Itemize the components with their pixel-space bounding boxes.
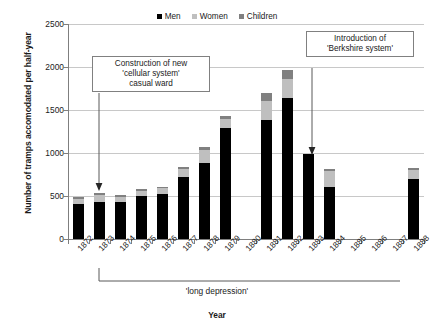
bar-segment-men-1888	[408, 179, 419, 239]
annotation-berkshire-line2: 'Berkshire system'	[310, 44, 410, 54]
bar-1879[interactable]	[220, 116, 231, 239]
y-tick-label-500: 500	[30, 191, 64, 201]
x-axis-ticks: 1872187318741875187618771878187918801881…	[68, 240, 424, 276]
bar-segment-men-1878	[199, 163, 210, 239]
bar-1873[interactable]	[94, 193, 105, 239]
bar-1874[interactable]	[115, 195, 126, 239]
bar-segment-women-1877	[178, 169, 189, 177]
bar-segment-children-1881	[261, 93, 272, 101]
bar-segment-men-1884	[324, 187, 335, 239]
bar-1882[interactable]	[282, 70, 293, 239]
bar-segment-women-1879	[220, 119, 231, 128]
bar-segment-men-1872	[73, 204, 84, 239]
bar-segment-men-1875	[136, 196, 147, 239]
bar-segment-women-1878	[199, 150, 210, 162]
bar-segment-women-1888	[408, 170, 419, 179]
chart-container: Men Women Children Number of tramps acco…	[0, 0, 434, 329]
x-tick-mark-0	[68, 240, 69, 244]
bar-segment-men-1877	[178, 177, 189, 239]
y-tick-label-1000: 1000	[30, 148, 64, 158]
bar-1888[interactable]	[408, 168, 419, 239]
annotation-cellular-line3: casual ward	[96, 79, 206, 89]
bar-segment-women-1884	[324, 171, 335, 187]
annotation-cellular-line1: Construction of new	[96, 59, 206, 69]
bar-segment-men-1876	[157, 194, 168, 239]
bar-segment-men-1873	[94, 202, 105, 239]
legend-swatch-women	[192, 14, 197, 19]
y-tick-label-2000: 2000	[30, 62, 64, 72]
bar-1878[interactable]	[199, 147, 210, 239]
bar-1876[interactable]	[157, 187, 168, 239]
bar-1872[interactable]	[73, 197, 84, 239]
bar-1883[interactable]	[303, 154, 314, 239]
bar-1884[interactable]	[324, 169, 335, 240]
legend-label-men: Men	[165, 12, 181, 21]
bar-segment-men-1881	[261, 120, 272, 239]
era-label-long-depression: 'long depression'	[0, 286, 434, 296]
bar-1875[interactable]	[136, 189, 147, 239]
chart-legend: Men Women Children	[0, 12, 434, 21]
y-tick-label-2500: 2500	[30, 19, 64, 29]
y-tick-label-1500: 1500	[30, 105, 64, 115]
legend-swatch-children	[239, 14, 244, 19]
legend-label-women: Women	[200, 12, 228, 21]
legend-swatch-men	[157, 14, 162, 19]
bar-segment-women-1873	[94, 195, 105, 202]
y-tick-label-0: 0	[30, 234, 64, 244]
legend-item-children: Children	[239, 12, 278, 21]
bar-segment-men-1882	[282, 98, 293, 239]
annotation-berkshire-line1: Introduction of	[310, 34, 410, 44]
annotation-cellular-system: Construction of new 'cellular system' ca…	[92, 56, 210, 92]
y-axis-ticks: 05001000150020002500	[24, 24, 64, 240]
bar-segment-men-1883	[303, 154, 314, 239]
legend-item-women: Women	[192, 12, 228, 21]
bar-segment-men-1874	[115, 202, 126, 239]
bar-segment-women-1882	[282, 79, 293, 97]
legend-item-men: Men	[157, 12, 181, 21]
annotation-berkshire-system: Introduction of 'Berkshire system'	[306, 31, 414, 57]
legend-label-children: Children	[247, 12, 278, 21]
bar-segment-women-1881	[261, 101, 272, 120]
bar-1877[interactable]	[178, 167, 189, 239]
bar-segment-children-1882	[282, 70, 293, 79]
bar-1881[interactable]	[261, 93, 272, 239]
annotation-cellular-line2: 'cellular system'	[96, 69, 206, 79]
bar-segment-men-1879	[220, 128, 231, 239]
x-axis-title: Year	[0, 310, 434, 320]
